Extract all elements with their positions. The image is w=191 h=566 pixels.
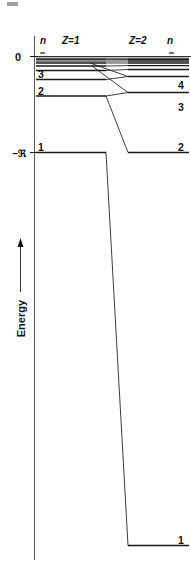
z2-label-n1: 1 [178,534,184,546]
z1-level-group [36,58,106,152]
energy-arrow-head [18,238,24,247]
z2-label-n2: 2 [178,141,184,153]
z1-label-n1: 1 [38,141,44,153]
z2-level-group [128,58,189,545]
rydberg-tick-label: –ℜ [12,148,27,159]
connector-n2-to-n3 [106,93,128,97]
z1-label-n3: 3 [38,68,44,80]
energy-axis-label: Energy [15,299,27,337]
correspondence-connector-group [90,58,128,545]
right-column-header: Z=2 [128,35,147,46]
page-corner-mark [7,2,18,6]
left-n-header: n [40,35,46,46]
right-infinity-label: ∞ [169,49,174,56]
left-infinity-label: ∞ [40,49,45,56]
left-column-header: Z=1 [61,35,80,46]
connector-n1-drop [106,153,128,546]
connector-n2-drop [106,96,128,153]
right-n-header: n [167,35,173,46]
z2-label-n4: 4 [178,79,184,91]
zero-tick-label: 0 [15,51,21,63]
energy-level-diagram: n Z=1 Z=2 n 0 –ℜ ∞ ∞ Energy [0,0,191,566]
diagram-canvas: n Z=1 Z=2 n 0 –ℜ ∞ ∞ Energy [0,0,191,566]
z2-label-n3: 3 [178,101,184,113]
z1-label-n2: 2 [38,85,44,97]
